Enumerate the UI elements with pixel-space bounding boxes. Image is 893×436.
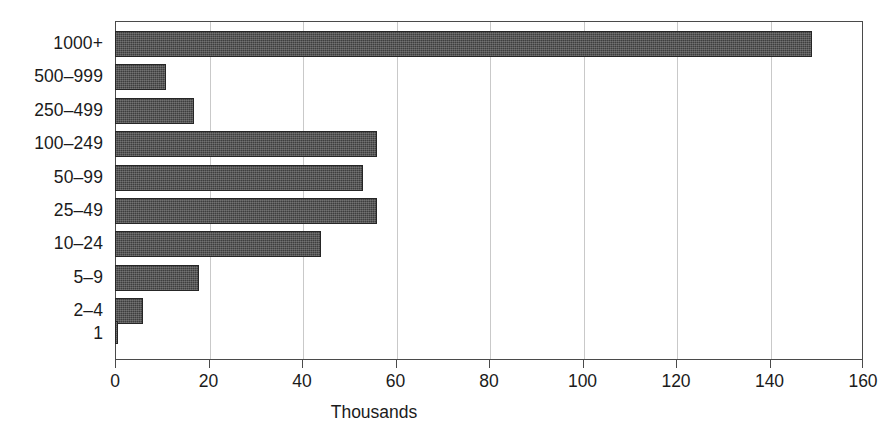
bar-250-499[interactable] bbox=[115, 98, 194, 124]
bar-1[interactable] bbox=[115, 321, 118, 344]
y-axis-tick-label: 500–999 bbox=[3, 66, 103, 87]
y-axis-tick-label: 1 bbox=[3, 323, 103, 344]
y-axis-tick-label: 50–99 bbox=[3, 167, 103, 188]
bar-100-249[interactable] bbox=[115, 131, 377, 157]
x-axis-tick-label: 100 bbox=[568, 371, 597, 392]
x-axis-tick bbox=[583, 360, 584, 368]
x-axis-tick bbox=[770, 360, 771, 368]
y-axis-tick-label: 100–249 bbox=[3, 133, 103, 154]
bar-50-99[interactable] bbox=[115, 165, 363, 191]
bar-1000-plus[interactable] bbox=[115, 31, 812, 57]
x-axis-tick-label: 20 bbox=[199, 371, 218, 392]
x-axis-tick bbox=[302, 360, 303, 368]
x-axis-title-text: Thousands bbox=[331, 402, 418, 423]
y-axis-tick-label: 2–4 bbox=[3, 300, 103, 321]
y-axis-tick-label: 1000+ bbox=[3, 33, 103, 54]
bars-layer bbox=[115, 21, 863, 360]
y-axis-tick-label: 5–9 bbox=[3, 267, 103, 288]
x-axis-tick bbox=[396, 360, 397, 368]
bar-chart-figure: 1000+ 500–999 250–499 100–249 50–99 25–4… bbox=[0, 0, 893, 436]
y-axis-tick-label: 25–49 bbox=[3, 200, 103, 221]
bar-500-999[interactable] bbox=[115, 64, 166, 90]
bar-2-4[interactable] bbox=[115, 298, 143, 324]
x-axis-tick-label: 60 bbox=[386, 371, 405, 392]
x-axis-title: Thousands bbox=[115, 402, 863, 423]
x-axis-tick bbox=[676, 360, 677, 368]
x-axis-tick-label: 160 bbox=[848, 371, 877, 392]
bar-10-24[interactable] bbox=[115, 231, 321, 257]
x-axis-tick-label: 140 bbox=[755, 371, 784, 392]
x-axis-tick bbox=[115, 360, 116, 368]
y-axis-tick-label: 250–499 bbox=[3, 100, 103, 121]
bar-5-9[interactable] bbox=[115, 265, 199, 291]
x-axis-tick-labels: 0 20 40 60 80 100 120 140 160 bbox=[115, 371, 863, 395]
x-axis-ticks bbox=[115, 360, 863, 369]
x-axis-tick-label: 120 bbox=[661, 371, 690, 392]
y-axis-tick-label: 10–24 bbox=[3, 233, 103, 254]
bar-25-49[interactable] bbox=[115, 198, 377, 224]
x-axis-tick-label: 0 bbox=[110, 371, 120, 392]
x-axis-tick bbox=[862, 360, 863, 368]
y-axis-labels: 1000+ 500–999 250–499 100–249 50–99 25–4… bbox=[0, 21, 103, 360]
x-axis-tick-label: 80 bbox=[479, 371, 498, 392]
x-axis-tick bbox=[489, 360, 490, 368]
x-axis-tick-label: 40 bbox=[292, 371, 311, 392]
x-axis-tick bbox=[209, 360, 210, 368]
